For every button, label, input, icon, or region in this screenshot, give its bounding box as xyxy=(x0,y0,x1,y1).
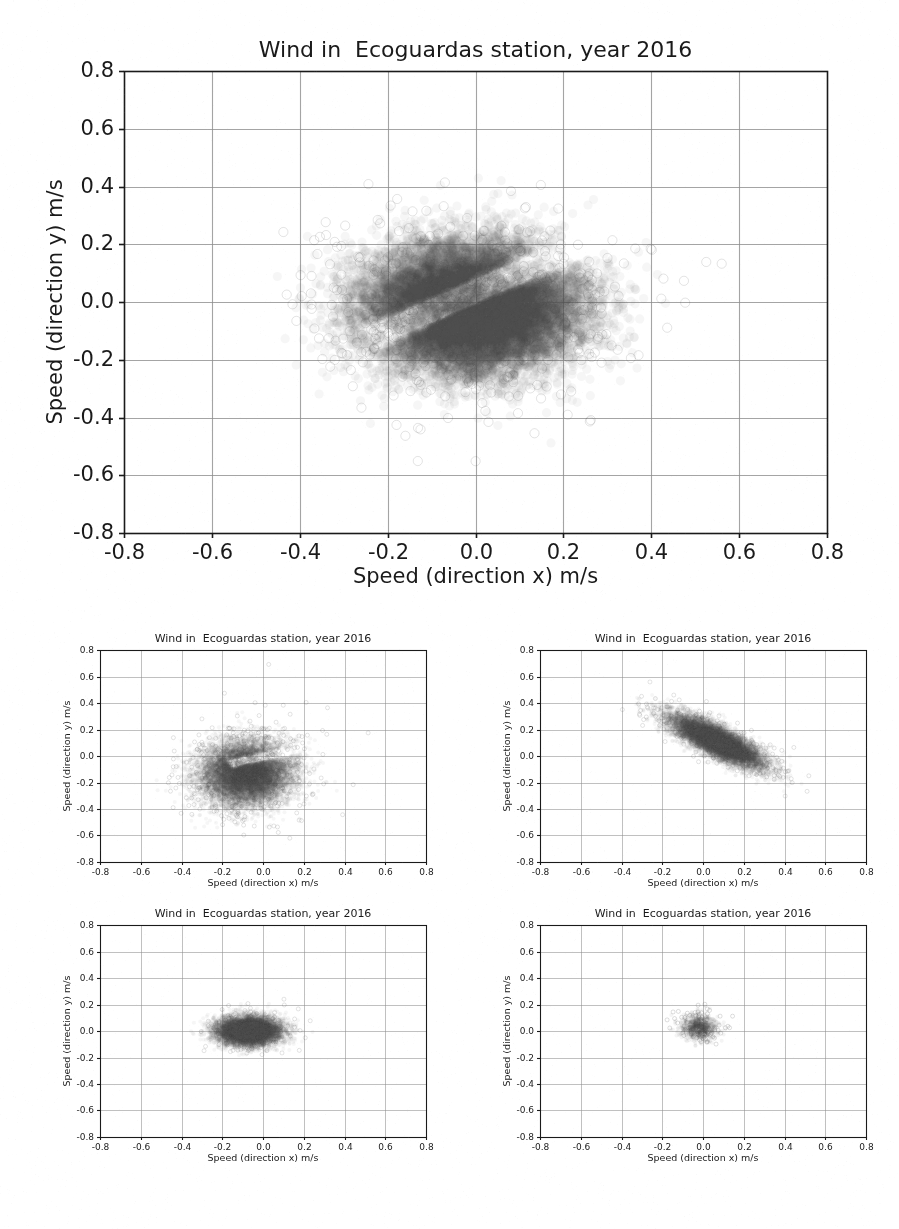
subplot-top-left xyxy=(0,600,449,890)
subplot-bottom-left-canvas xyxy=(0,875,449,1165)
main-scatter-figure xyxy=(0,18,899,598)
main-scatter-plot-canvas xyxy=(0,18,899,598)
subplot-top-right-canvas xyxy=(440,600,889,890)
small-multiples-grid xyxy=(0,600,899,1200)
subplot-bottom-right xyxy=(440,875,889,1165)
subplot-top-left-canvas xyxy=(0,600,449,890)
subplot-bottom-left xyxy=(0,875,449,1165)
subplot-top-right xyxy=(440,600,889,890)
subplot-bottom-right-canvas xyxy=(440,875,889,1165)
